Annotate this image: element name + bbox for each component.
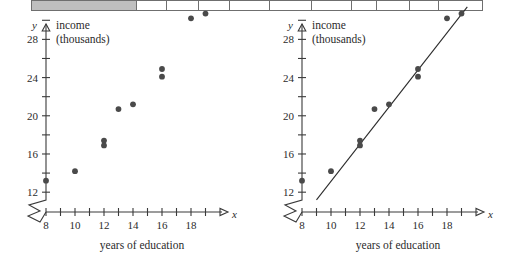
data-point xyxy=(444,15,450,21)
data-point xyxy=(101,142,107,148)
data-point xyxy=(130,101,136,107)
x-tick-label: 8 xyxy=(43,219,49,231)
data-point xyxy=(159,66,165,72)
x-axis-left xyxy=(46,208,228,215)
y-tick-label: 20 xyxy=(283,110,295,122)
data-point xyxy=(415,66,421,72)
data-point xyxy=(116,106,122,112)
data-point xyxy=(357,142,363,148)
x-tick-label: 18 xyxy=(186,219,198,231)
data-point xyxy=(203,11,209,17)
y-tick-label: 16 xyxy=(27,148,39,160)
y-tick-label: 12 xyxy=(283,186,294,198)
y-tick-label: 20 xyxy=(27,110,39,122)
y-tick-label: 12 xyxy=(27,186,38,198)
x-tick-label: 14 xyxy=(128,219,140,231)
scatterplot-with-regression-line: 1216202428 81012141618 y income (thousan… xyxy=(256,0,512,260)
x-tick-label: 10 xyxy=(326,219,338,231)
y-tick-label: 16 xyxy=(283,148,295,160)
x-axis-title: years of education xyxy=(356,239,441,252)
data-point xyxy=(372,106,378,112)
x-axis-variable-label: x xyxy=(231,208,237,220)
data-point xyxy=(328,168,334,174)
left-plot-svg: 1216202428 81012141618 y income (thousan… xyxy=(0,0,256,260)
figure-two-scatterplots: 1216202428 81012141618 y income (thousan… xyxy=(0,0,512,260)
data-point xyxy=(415,74,421,80)
y-axis-variable-label: y xyxy=(31,19,37,31)
y-tick-label: 24 xyxy=(283,72,295,84)
x-tick-label: 12 xyxy=(355,219,366,231)
data-point xyxy=(459,11,465,17)
data-point xyxy=(43,178,49,184)
data-point xyxy=(386,101,392,107)
x-tick-label: 18 xyxy=(442,219,454,231)
x-axis-variable-label: x xyxy=(487,208,493,220)
x-tick-label: 10 xyxy=(70,219,82,231)
y-axis-title-line1: income xyxy=(56,19,90,31)
x-tick-label: 16 xyxy=(413,219,425,231)
y-axis-variable-label: y xyxy=(287,19,293,31)
data-point xyxy=(72,168,78,174)
data-point xyxy=(299,178,305,184)
y-tick-label: 28 xyxy=(27,33,39,45)
x-tick-label: 14 xyxy=(384,219,396,231)
x-axis-title: years of education xyxy=(100,239,185,252)
y-axis-title-line2: (thousands) xyxy=(312,33,366,46)
y-axis-right xyxy=(298,24,306,196)
y-tick-label: 28 xyxy=(283,33,295,45)
scatterplot-without-line: 1216202428 81012141618 y income (thousan… xyxy=(0,0,256,260)
y-axis-left xyxy=(42,24,50,196)
y-axis-title-line2: (thousands) xyxy=(56,33,110,46)
data-point xyxy=(188,15,194,21)
right-plot-svg: 1216202428 81012141618 y income (thousan… xyxy=(256,0,512,260)
x-tick-label: 16 xyxy=(157,219,169,231)
x-tick-label: 8 xyxy=(299,219,305,231)
data-point xyxy=(159,74,165,80)
y-axis-title-line1: income xyxy=(312,19,346,31)
y-tick-label: 24 xyxy=(27,72,39,84)
x-axis-right xyxy=(302,208,484,215)
x-tick-label: 12 xyxy=(99,219,110,231)
